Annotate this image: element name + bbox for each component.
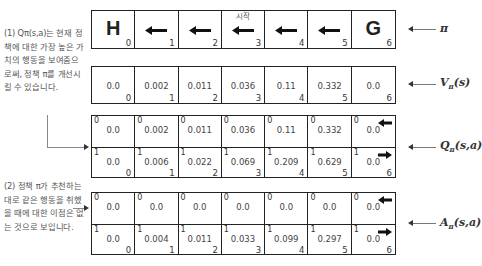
connector-arrow bbox=[73, 208, 85, 209]
state-index: 3 bbox=[256, 38, 261, 48]
pi-label: π bbox=[440, 22, 448, 35]
left-arrow-icon bbox=[378, 119, 392, 127]
state-index: 4 bbox=[299, 38, 304, 48]
v-pointer-arrow bbox=[412, 84, 436, 85]
state-index: 5 bbox=[342, 38, 347, 48]
a-cell: 00.0 10.0112 bbox=[179, 193, 222, 254]
value-cell: 0.00 bbox=[92, 67, 135, 103]
policy-cell: 1 bbox=[135, 11, 178, 48]
policy-cell: 5 bbox=[308, 11, 351, 48]
connector-arrow bbox=[47, 147, 85, 148]
policy-cell: 4 bbox=[265, 11, 308, 48]
q-cell: 00.002 10.0061 bbox=[135, 116, 178, 177]
state-index: 1 bbox=[169, 38, 174, 48]
value-grid: 0.00 0.0021 0.0112 0.0363 0.114 0.3325 0… bbox=[91, 66, 396, 104]
q-cell: 00.11 10.2094 bbox=[265, 116, 308, 177]
value-cell: 0.0021 bbox=[135, 67, 178, 103]
state-index: 2 bbox=[212, 38, 217, 48]
right-arrow-icon bbox=[378, 151, 392, 159]
q-pointer-arrow bbox=[412, 147, 436, 148]
q-cell: 00.332 10.6295 bbox=[308, 116, 351, 177]
left-arrow-icon bbox=[232, 26, 254, 35]
value-cell: 0.0363 bbox=[222, 67, 265, 103]
q-cell: 00.0 10.06 bbox=[352, 116, 395, 177]
left-arrow-icon bbox=[189, 26, 211, 35]
a-cell: 00.0 10.0041 bbox=[135, 193, 178, 254]
q-grid: 00.0 10.00 00.002 10.0061 00.011 10.0222… bbox=[91, 115, 396, 178]
left-arrow-icon bbox=[145, 26, 167, 35]
value-cell: 0.0112 bbox=[179, 67, 222, 103]
a-cell: 00.0 10.0994 bbox=[265, 193, 308, 254]
q-cell: 00.0 10.00 bbox=[92, 116, 135, 177]
note-q-improvement: (1) Qπ(s,a)는 현재 정책에 대한 가장 높은 가치의 행동을 보여줌… bbox=[4, 27, 84, 95]
connector-line bbox=[47, 115, 48, 147]
policy-cell: 2 bbox=[179, 11, 222, 48]
left-arrow-icon bbox=[318, 26, 340, 35]
policy-cell: H 0 bbox=[92, 11, 135, 48]
policy-cell: 시작 3 bbox=[222, 11, 265, 48]
value-cell: 0.06 bbox=[352, 67, 395, 103]
a-cell: 00.0 10.0333 bbox=[222, 193, 265, 254]
left-arrow-icon bbox=[275, 26, 297, 35]
q-label: Qπ(s,a) bbox=[440, 139, 482, 154]
right-arrow-icon bbox=[378, 228, 392, 236]
value-cell: 0.114 bbox=[265, 67, 308, 103]
advantage-grid: 00.0 10.00 00.0 10.0041 00.0 10.0112 00.… bbox=[91, 192, 396, 255]
note-advantage: (2) 정책 π가 추천하는 대로 같은 행동을 취했을 때에 대한 이점은 없… bbox=[4, 180, 84, 234]
a-cell: 00.0 10.06 bbox=[352, 193, 395, 254]
q-cell: 00.011 10.0222 bbox=[179, 116, 222, 177]
policy-grid: H 0 1 2 시작 3 4 5 G 6 bbox=[91, 10, 396, 49]
a-cell: 00.0 10.00 bbox=[92, 193, 135, 254]
left-arrow-icon bbox=[378, 196, 392, 204]
a-pointer-arrow bbox=[412, 223, 436, 224]
state-index: 0 bbox=[126, 38, 131, 48]
a-label: Aπ(s,a) bbox=[440, 216, 481, 231]
v-label: Vπ(s) bbox=[440, 76, 470, 91]
pi-pointer-arrow bbox=[412, 29, 436, 30]
policy-cell: G 6 bbox=[352, 11, 395, 48]
hole-label: H bbox=[92, 17, 134, 40]
a-cell: 00.0 10.2975 bbox=[308, 193, 351, 254]
goal-label: G bbox=[352, 17, 395, 40]
state-index: 6 bbox=[387, 38, 392, 48]
value-cell: 0.3325 bbox=[308, 67, 351, 103]
q-cell: 00.036 10.0693 bbox=[222, 116, 265, 177]
start-label: 시작 bbox=[222, 10, 264, 21]
